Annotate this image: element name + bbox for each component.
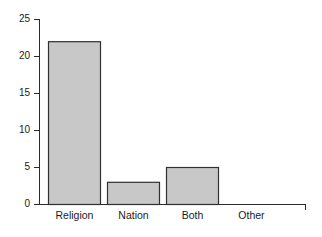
bar-nation (108, 182, 160, 204)
y-tick-label-20: 20 (19, 50, 31, 61)
x-tick-label-other: Other (238, 209, 265, 221)
y-tick-label-0: 0 (24, 198, 30, 209)
x-tick-label-religion: Religion (56, 209, 94, 221)
y-tick-label-10: 10 (19, 124, 31, 135)
bar-both (167, 168, 219, 205)
y-tick-label-15: 15 (19, 87, 31, 98)
y-tick-label-5: 5 (24, 161, 30, 172)
chart-canvas: 0 5 10 15 20 25 ReligionNationBothOther (0, 0, 322, 237)
bar-religion (49, 42, 101, 205)
x-tick-label-nation: Nation (118, 209, 149, 221)
x-tick-label-both: Both (182, 209, 204, 221)
bar-chart-figure: 0 5 10 15 20 25 ReligionNationBothOther (0, 0, 322, 237)
y-tick-label-25: 25 (19, 13, 31, 24)
